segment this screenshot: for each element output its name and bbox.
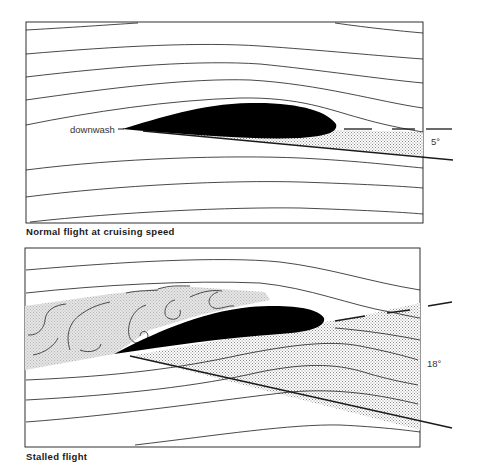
caption-stalled-flight: Stalled flight <box>26 451 87 462</box>
panel-stalled-flight <box>25 248 452 447</box>
airflow-diagram <box>0 0 478 476</box>
caption-normal-flight: Normal flight at cruising speed <box>26 226 175 237</box>
angle-label-stalled: 18° <box>427 358 441 369</box>
airfoil-normal <box>122 103 336 138</box>
angle-label-normal: 5° <box>431 136 440 147</box>
downwash-label: downwash <box>70 124 115 135</box>
panel-normal-flight <box>26 22 453 223</box>
